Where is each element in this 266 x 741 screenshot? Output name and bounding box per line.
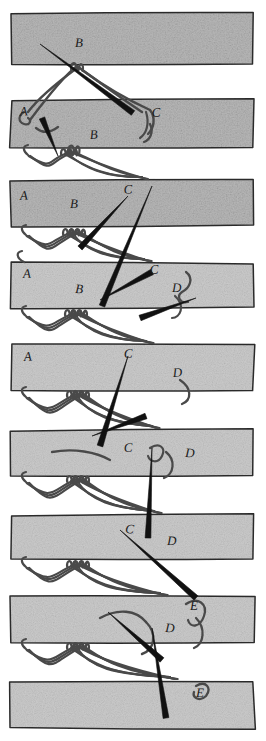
hole-label-c: C [124, 346, 133, 361]
hole-label-c: C [151, 105, 161, 120]
strap [11, 344, 255, 391]
strap [10, 262, 254, 309]
hole-label-d: D [171, 364, 183, 380]
hole-label-b: B [75, 281, 84, 296]
hole-label-a: A [18, 188, 28, 203]
diagram-canvas: BACBACBACBDACDCDCDEDE [0, 0, 266, 741]
hole-label-c: C [124, 440, 134, 455]
hole-label-e: E [189, 598, 198, 613]
strap [10, 681, 256, 729]
hole-label-d: D [164, 620, 176, 636]
lacing-diagram-illustration: BACBACBACBDACDCDCDEDE [0, 0, 266, 741]
hole-label-c: C [123, 181, 133, 197]
hole-label-d: D [166, 533, 177, 548]
hole-label-a: A [22, 266, 32, 281]
thread-strand [18, 251, 24, 262]
hole-label-c: C [125, 521, 135, 537]
hole-label-a: A [22, 348, 32, 364]
hole-label-a: A [18, 103, 28, 119]
strap [11, 13, 253, 65]
hole-label-b: B [70, 196, 78, 211]
hole-label-d: D [171, 280, 182, 295]
hole-label-b: B [75, 35, 83, 50]
hole-label-b: B [89, 126, 98, 142]
hole-label-e: E [195, 685, 204, 700]
hole-label-c: C [149, 262, 159, 277]
hole-label-d: D [184, 445, 196, 461]
straps-layer [10, 13, 256, 730]
